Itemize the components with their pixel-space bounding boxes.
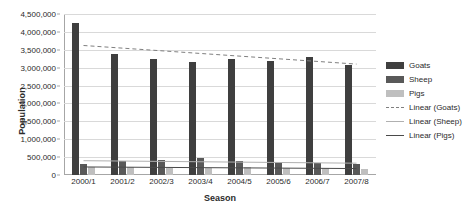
- legend-item-pigs[interactable]: Pigs: [386, 86, 476, 100]
- y-axis-tick: [57, 67, 60, 68]
- trendline-linear-sheep: [84, 161, 357, 164]
- legend-label: Pigs: [409, 89, 425, 98]
- legend-label: Linear (Goats): [409, 103, 460, 112]
- y-axis-tick: [57, 175, 60, 176]
- legend-item-goats[interactable]: Goats: [386, 58, 476, 72]
- legend-swatch-sheep: [386, 76, 404, 83]
- legend-line-pigsline: [386, 132, 404, 139]
- y-axis-tick-label: 2,500,000: [20, 81, 56, 90]
- y-axis-tick-label: 1,500,000: [20, 117, 56, 126]
- y-axis-tick-label: 3,500,000: [20, 45, 56, 54]
- legend-item-goatsline[interactable]: Linear (Goats): [386, 100, 476, 114]
- trendline-linear-pigs: [84, 167, 357, 169]
- x-axis-tick-label: 2002/3: [149, 177, 173, 186]
- y-axis-tick: [57, 157, 60, 158]
- y-axis-tick-label: 4,000,000: [20, 27, 56, 36]
- legend-swatch-goats: [386, 62, 404, 69]
- x-axis-tick-label: 2001/2: [110, 177, 134, 186]
- x-axis-tick-label: 2006/7: [305, 177, 329, 186]
- y-axis-tick: [57, 14, 60, 15]
- y-axis-tick: [57, 49, 60, 50]
- y-axis-tick-label: 3,000,000: [20, 63, 56, 72]
- legend-label: Linear (Sheep): [409, 117, 462, 126]
- legend-label: Linear (Pigs): [409, 131, 454, 140]
- legend-item-pigsline[interactable]: Linear (Pigs): [386, 128, 476, 142]
- legend-line-goatsline: [386, 104, 404, 111]
- y-axis-tick: [57, 31, 60, 32]
- legend-swatch-pigs: [386, 90, 404, 97]
- legend-item-sheepline[interactable]: Linear (Sheep): [386, 114, 476, 128]
- y-axis-tick: [57, 85, 60, 86]
- population-by-season-chart: Population 0500,0001,000,0001,500,0002,0…: [0, 0, 476, 221]
- chart-legend: GoatsSheepPigsLinear (Goats)Linear (Shee…: [386, 58, 476, 142]
- y-axis-tick-label: 0: [52, 171, 56, 180]
- x-axis-tick-label: 2000/1: [71, 177, 95, 186]
- x-axis-tick-label: 2004/5: [227, 177, 251, 186]
- x-axis-tick-label: 2003/4: [188, 177, 212, 186]
- legend-label: Goats: [409, 61, 430, 70]
- x-axis-title: Season: [64, 193, 376, 203]
- legend-line-sheepline: [386, 118, 404, 125]
- y-axis-tick-label: 2,000,000: [20, 99, 56, 108]
- y-axis-tick-labels: 0500,0001,000,0001,500,0002,000,0002,500…: [0, 14, 60, 175]
- y-axis-tick-label: 500,000: [27, 153, 56, 162]
- y-axis-tick-label: 4,500,000: [20, 10, 56, 19]
- y-axis-tick-label: 1,000,000: [20, 135, 56, 144]
- x-axis-tick-label: 2005/6: [266, 177, 290, 186]
- trendlines-layer: [64, 14, 376, 175]
- legend-label: Sheep: [409, 75, 432, 84]
- x-axis-tick-label: 2007/8: [344, 177, 368, 186]
- x-axis-tick-labels: 2000/12001/22002/32003/42004/52005/62006…: [64, 177, 376, 191]
- y-axis-tick: [57, 121, 60, 122]
- legend-item-sheep[interactable]: Sheep: [386, 72, 476, 86]
- y-axis-tick: [57, 139, 60, 140]
- trendline-linear-goats: [84, 45, 357, 64]
- y-axis-tick: [57, 103, 60, 104]
- plot-area-wrapper: [64, 14, 376, 175]
